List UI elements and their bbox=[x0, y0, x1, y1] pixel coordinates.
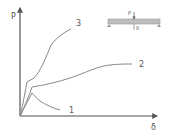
curve-1 bbox=[20, 93, 60, 116]
load-deflection-chart: P δ 3 2 1 P δ bbox=[0, 0, 176, 137]
curve-labels: 3 2 1 bbox=[69, 19, 144, 115]
load-label: P bbox=[128, 10, 131, 16]
deflection-label: δ bbox=[136, 25, 139, 31]
curve-label-1: 1 bbox=[69, 106, 74, 115]
curve-3 bbox=[20, 29, 71, 116]
beam bbox=[108, 19, 160, 24]
curve-label-3: 3 bbox=[76, 19, 81, 28]
y-axis-label: P bbox=[11, 12, 16, 21]
left-support-icon bbox=[107, 24, 111, 27]
right-support-icon bbox=[157, 24, 161, 27]
curve-2 bbox=[20, 64, 132, 116]
curve-label-2: 2 bbox=[139, 60, 144, 69]
x-axis-label: δ bbox=[151, 123, 156, 132]
beam-inset: P δ bbox=[107, 10, 161, 31]
curves bbox=[20, 29, 132, 116]
